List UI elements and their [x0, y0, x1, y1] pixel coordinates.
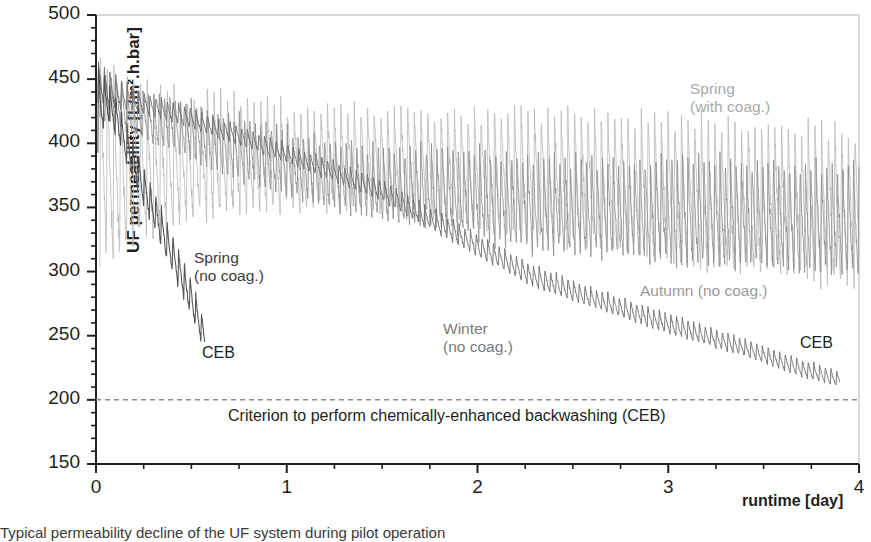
y-tick-label: 150 [20, 451, 80, 473]
figure-uf-permeability: UF permeability [L/m².h.bar] Spring(with… [0, 0, 871, 542]
annotation-spring-no-coag: Spring(no coag.) [194, 249, 264, 285]
annotation-criterion: Criterion to perform chemically-enhanced… [228, 407, 666, 425]
x-tick-label: 0 [76, 476, 116, 498]
figure-caption: Typical permeability decline of the UF s… [0, 524, 871, 542]
y-tick-label: 200 [20, 387, 80, 409]
x-tick-label: 2 [458, 476, 498, 498]
x-tick-label: 4 [839, 476, 871, 498]
y-tick-label: 350 [20, 194, 80, 216]
annotation-spring-with-coag: Spring(with coag.) [690, 80, 770, 116]
annotation-ceb-right: CEB [800, 334, 833, 352]
y-tick-label: 450 [20, 66, 80, 88]
annotation-winter-no-coag: Winter(no coag.) [443, 320, 513, 356]
annotation-autumn-no-coag: Autumn (no coag.) [640, 282, 768, 300]
y-tick-label: 400 [20, 130, 80, 152]
x-tick-label: 1 [267, 476, 307, 498]
x-tick-label: 3 [648, 476, 688, 498]
annotation-ceb-left: CEB [202, 344, 235, 362]
y-tick-label: 250 [20, 323, 80, 345]
y-tick-label: 500 [20, 2, 80, 24]
y-tick-label: 300 [20, 259, 80, 281]
x-axis-label: runtime [day] [742, 492, 843, 510]
